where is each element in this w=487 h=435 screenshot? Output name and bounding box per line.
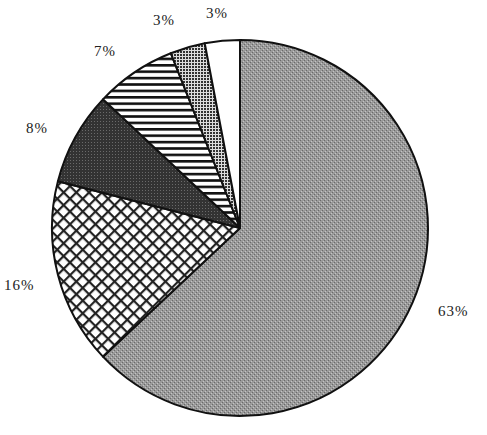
- pie-chart: 63%16%8%7%3%3%: [0, 0, 487, 435]
- slice-label: 3%: [206, 5, 228, 21]
- slice-label: 3%: [153, 12, 175, 28]
- pie-slices: [52, 40, 428, 416]
- slice-label: 7%: [94, 43, 116, 59]
- slice-label: 16%: [4, 277, 35, 293]
- slice-label: 63%: [438, 303, 469, 319]
- slice-label: 8%: [26, 120, 48, 136]
